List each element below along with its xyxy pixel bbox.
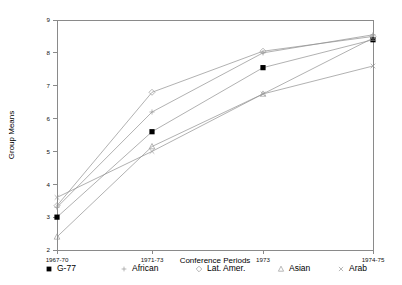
- legend-marker-filled-square-icon: [47, 267, 52, 272]
- y-tick-label: 8: [47, 49, 51, 56]
- y-tick-label: 5: [47, 148, 51, 155]
- x-tick-label: 1974-75: [362, 256, 385, 263]
- data-point-g-77-2: [260, 65, 265, 70]
- y-tick-label: 3: [47, 213, 51, 220]
- series-line-arab: [57, 66, 373, 197]
- y-tick-label: 2: [47, 246, 51, 253]
- y-tick-label: 6: [47, 115, 51, 122]
- series-lines: [57, 35, 373, 237]
- legend-label: G-77: [57, 263, 76, 273]
- group-means-line-chart: 23456789 1967-701971-7319731974-75 Group…: [0, 0, 402, 285]
- data-point-g-77-1: [149, 129, 154, 134]
- series-line-african: [57, 35, 373, 208]
- x-tick-label: 1971-73: [141, 256, 164, 263]
- series-line-asian: [57, 38, 373, 237]
- x-tick-label: 1973: [256, 256, 270, 263]
- series-line-g-77: [57, 40, 373, 217]
- legend-item-african[interactable]: African: [122, 263, 159, 273]
- legend-marker-diamond-icon: [196, 266, 202, 272]
- axes: [57, 20, 373, 250]
- series-markers: [54, 32, 376, 239]
- legend-label: Arab: [349, 263, 367, 273]
- legend-item-arab[interactable]: Arab: [339, 263, 367, 273]
- y-tick-label: 4: [47, 181, 51, 188]
- data-point-arab-1: [150, 149, 155, 154]
- chart-container: 23456789 1967-701971-7319731974-75 Group…: [0, 0, 402, 285]
- data-point-g-77-0: [54, 215, 59, 220]
- legend: G-77AfricanLat. Amer.AsianArab: [47, 263, 368, 273]
- legend-label: African: [132, 263, 159, 273]
- y-tick-label: 9: [47, 16, 51, 23]
- legend-marker-triangle-icon: [278, 266, 283, 271]
- legend-label: Lat. Amer.: [207, 263, 245, 273]
- legend-label: Asian: [289, 263, 311, 273]
- legend-item-g-77[interactable]: G-77: [47, 263, 77, 273]
- y-axis-title: Group Means: [7, 111, 16, 159]
- x-tick-label: 1967-70: [46, 256, 69, 263]
- y-tick-label: 7: [47, 82, 51, 89]
- legend-item-asian[interactable]: Asian: [278, 263, 310, 273]
